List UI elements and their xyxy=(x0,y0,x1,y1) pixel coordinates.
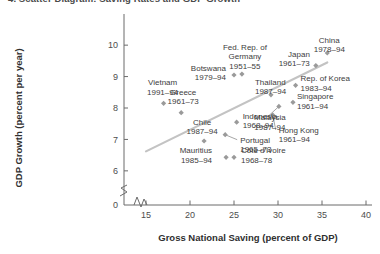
y-tick-label: 7 xyxy=(113,135,118,145)
y-tick-label: 8 xyxy=(113,103,118,113)
data-point-marker xyxy=(290,100,295,105)
chart-title: 4. Scatter Diagram: Saving Rates and GDP… xyxy=(8,0,240,4)
y-tick-label: 10 xyxy=(108,40,118,50)
data-point-label: Fed. Rep. ofGermany1951–55 xyxy=(223,43,268,71)
data-point-marker xyxy=(223,132,228,137)
data-point-marker xyxy=(161,101,166,106)
data-point-label: Thailand1987–94 xyxy=(255,78,287,96)
data-point-marker xyxy=(201,138,206,143)
data-point-marker xyxy=(223,155,228,160)
data-point-marker xyxy=(234,120,239,125)
data-point-label: Rep. of Korea1983–94 xyxy=(301,74,351,92)
data-point-label: Hong Kong1961–94 xyxy=(279,126,319,144)
x-axis-title: Gross National Saving (percent of GDP) xyxy=(158,232,337,243)
chart-canvas: Vietnam1991–94Greece1961–73Chile1987–94M… xyxy=(0,0,380,254)
data-point-marker xyxy=(231,72,236,77)
x-tick-label: 30 xyxy=(273,210,283,220)
y-tick-label-zero: 0 xyxy=(113,200,118,210)
data-point-label: Singapore1961–94 xyxy=(297,92,334,110)
data-point-marker xyxy=(293,83,298,88)
y-tick-label: 6 xyxy=(113,166,118,176)
data-point-label: Portugal1965–73 xyxy=(240,136,272,154)
data-point-label: Chile1987–94 xyxy=(187,118,219,136)
scatter-chart-figure: 4. Scatter Diagram: Saving Rates and GDP… xyxy=(0,0,380,254)
data-point-label: Greece1961–73 xyxy=(168,88,200,106)
data-point-label: Botswana1979–94 xyxy=(191,64,227,82)
data-point-marker xyxy=(231,155,236,160)
y-axis-title: GDP Growth (percent per year) xyxy=(13,48,24,187)
x-tick-label: 35 xyxy=(317,210,327,220)
data-point-label: Mauritius1985–94 xyxy=(180,146,213,164)
x-tick-label: 40 xyxy=(361,210,371,220)
x-tick-label: 15 xyxy=(141,210,151,220)
data-point-marker xyxy=(179,110,184,115)
data-point-label: Japan1961–73 xyxy=(279,50,311,68)
x-tick-label: 20 xyxy=(185,210,195,220)
x-tick-label: 25 xyxy=(229,210,239,220)
data-point-marker xyxy=(239,71,244,76)
data-point-label: China1978–94 xyxy=(314,36,346,54)
y-tick-label: 9 xyxy=(113,72,118,82)
